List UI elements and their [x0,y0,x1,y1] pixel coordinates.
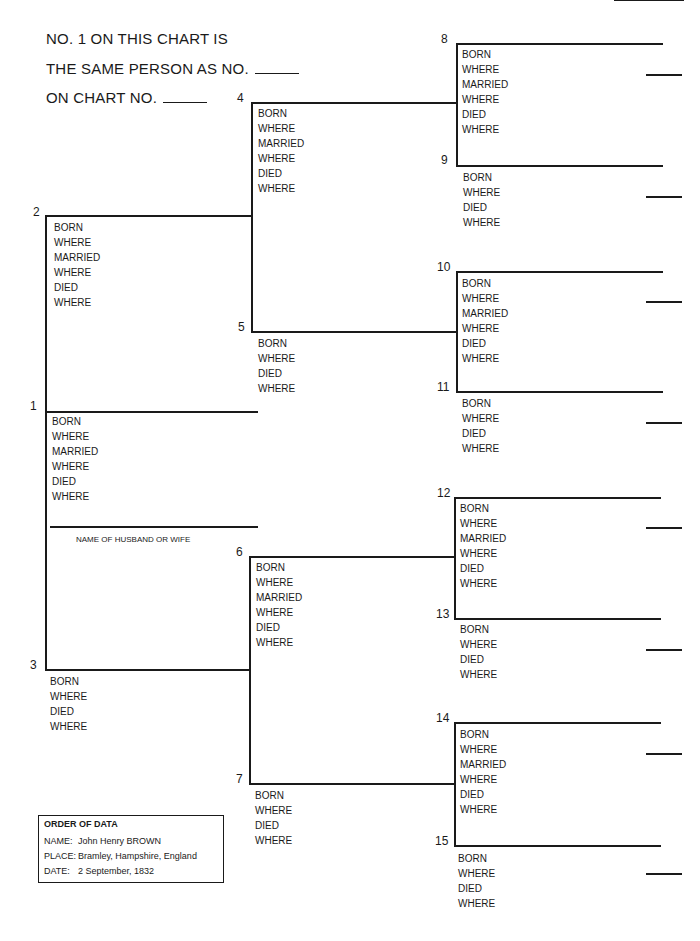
person-6-labels: BORNWHEREMARRIEDWHEREDIEDWHERE [256,560,302,650]
person-5-labels: BORNWHEREDIEDWHERE [258,336,295,396]
person-4-labels: BORNWHEREMARRIEDWHEREDIEDWHERE [258,106,304,196]
person-13-labels: BORNWHEREDIEDWHERE [460,622,497,682]
header-line-2-text: THE SAME PERSON AS NO. [46,60,249,77]
person-14-continuation-line [646,753,682,755]
person-10-labels: BORNWHEREMARRIEDWHEREDIEDWHERE [462,276,508,366]
person-9-name-line[interactable] [456,165,663,167]
person-number-9: 9 [441,153,448,167]
person-7-name-line[interactable] [249,783,454,785]
person-number-6: 6 [236,545,243,559]
person-2-name-line[interactable] [45,215,251,217]
person-11-labels: BORNWHEREDIEDWHERE [462,396,499,456]
person-3-labels: BORNWHEREDIEDWHERE [50,674,87,734]
person-4-name-line[interactable] [251,102,457,104]
order-row-date: DATE:2 September, 1832 [44,863,223,878]
person-5-name-line[interactable] [251,331,456,333]
person-11-name-line[interactable] [456,391,663,393]
bracket-14-15 [454,722,456,845]
person-10-continuation-line [646,301,682,303]
person-number-7: 7 [236,772,243,786]
person-1-labels: BORNWHEREMARRIEDWHEREDIEDWHERE [52,414,98,504]
person-number-13: 13 [436,607,449,621]
person-15-continuation-line [646,873,682,875]
header-line-2: THE SAME PERSON AS NO. [46,60,299,77]
top-edge-line [614,0,684,1]
bracket-4-5 [251,102,253,332]
order-row-place: PLACE:Bramley, Hampshire, England [44,848,223,863]
person-6-name-line[interactable] [249,556,454,558]
person-9-labels: BORNWHEREDIEDWHERE [463,170,500,230]
person-10-name-line[interactable] [456,271,663,273]
person-8-continuation-line [646,74,682,76]
header-line-1: NO. 1 ON THIS CHART IS [46,30,228,47]
person-12-name-line[interactable] [454,497,661,499]
person-7-labels: BORNWHEREDIEDWHERE [255,788,292,848]
header-line-3: ON CHART NO. [46,89,207,106]
person-number-3: 3 [30,658,37,672]
person-number-5: 5 [238,320,245,334]
spouse-name-line[interactable] [50,526,258,528]
person-number-10: 10 [437,260,450,274]
person-number-12: 12 [437,486,450,500]
person-13-continuation-line [646,649,682,651]
person-1-name-line[interactable] [45,411,258,413]
person-9-continuation-line [646,196,682,198]
person-number-15: 15 [435,834,448,848]
person-8-labels: BORNWHEREMARRIEDWHEREDIEDWHERE [462,47,508,137]
person-12-labels: BORNWHEREMARRIEDWHEREDIEDWHERE [460,501,506,591]
person-12-continuation-line [646,527,682,529]
header-line-3-text: ON CHART NO. [46,89,157,106]
person-3-name-line[interactable] [45,669,250,671]
order-of-data-box: ORDER OF DATA NAME:John Henry BROWN PLAC… [38,815,224,883]
person-8-name-line[interactable] [456,43,663,45]
person-14-name-line[interactable] [454,722,661,724]
person-15-name-line[interactable] [454,845,661,847]
spouse-label: NAME OF HUSBAND OR WIFE [76,532,190,547]
bracket-6-7 [249,556,251,783]
person-number-4: 4 [237,91,244,105]
person-number-1: 1 [30,399,37,413]
same-person-number-field[interactable] [255,63,299,74]
bracket-2-3 [45,215,47,670]
person-11-continuation-line [646,422,682,424]
bracket-12-13 [454,497,456,618]
person-number-2: 2 [33,205,40,219]
person-number-8: 8 [441,32,448,46]
order-row-name: NAME:John Henry BROWN [44,833,223,848]
chart-number-field[interactable] [163,92,207,103]
person-number-11: 11 [437,380,449,394]
person-15-labels: BORNWHEREDIEDWHERE [458,851,495,911]
order-of-data-title: ORDER OF DATA [44,819,223,833]
person-13-name-line[interactable] [454,618,661,620]
person-number-14: 14 [436,711,449,725]
bracket-10-11 [456,271,458,392]
person-2-labels: BORNWHEREMARRIEDWHEREDIEDWHERE [54,220,100,310]
bracket-8-9 [456,43,458,165]
person-14-labels: BORNWHEREMARRIEDWHEREDIEDWHERE [460,727,506,817]
